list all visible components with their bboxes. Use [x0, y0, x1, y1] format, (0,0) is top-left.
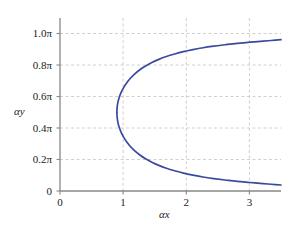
y-axis-title: αy — [14, 106, 25, 117]
curve-upper-branch — [117, 40, 281, 113]
xtick-label-0: 0 — [48, 197, 72, 208]
ytick-label-0: 0 — [8, 186, 52, 197]
gridlines-horizontal — [60, 34, 281, 160]
x-axis-title: αx — [159, 209, 170, 220]
ytick-label-0.8pi: 0.8π — [8, 60, 52, 71]
ytick-label-0.2pi: 0.2π — [8, 154, 52, 165]
curve-lower-branch — [117, 112, 281, 185]
chart-figure: 1.0π 0.8π 0.6π 0.4π 0.2π 0 0 1 2 3 αy αx — [0, 0, 291, 232]
ytick-label-0.6pi: 0.6π — [8, 91, 52, 102]
xtick-label-1: 1 — [111, 197, 135, 208]
xtick-label-3: 3 — [237, 197, 261, 208]
xtick-label-2: 2 — [174, 197, 198, 208]
ytick-label-0.4pi: 0.4π — [8, 123, 52, 134]
ytick-label-1.0pi: 1.0π — [8, 28, 52, 39]
